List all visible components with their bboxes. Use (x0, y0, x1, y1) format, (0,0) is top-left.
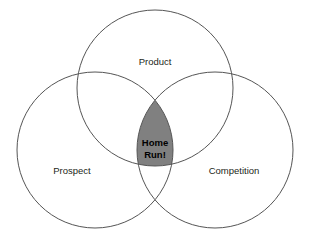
venn-diagram-canvas: Product Prospect Competition Home Run! (0, 0, 309, 249)
label-prospect: Prospect (53, 165, 91, 176)
label-home-run-line-1: Home (142, 137, 168, 148)
label-home-run-line-2: Run! (144, 149, 166, 160)
label-product: Product (139, 56, 172, 67)
label-competition: Competition (209, 165, 260, 176)
venn-diagram: Product Prospect Competition Home Run! (0, 0, 309, 249)
